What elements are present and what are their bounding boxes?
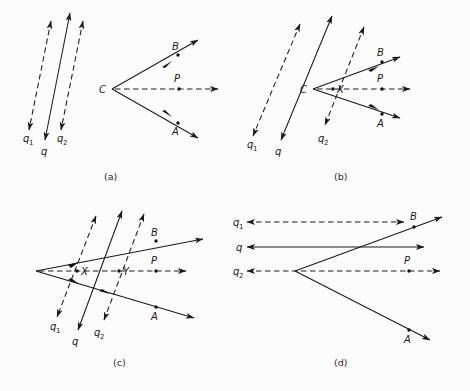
- panel-c-point-A: [154, 305, 157, 308]
- panel-d-label-A: A: [403, 334, 411, 345]
- panel-a-label-P: P: [174, 73, 181, 84]
- panel-c-label-q2-sub: 2: [100, 333, 104, 341]
- panel-c-point-Y: [117, 269, 120, 272]
- panel-a-caption: (a): [104, 171, 117, 182]
- panel-c-tick-B: [68, 262, 79, 268]
- panel-a-point-P: [177, 87, 180, 90]
- panel-b-label-A: A: [376, 118, 384, 129]
- panel-c-label-A: A: [150, 311, 158, 322]
- panel-b-label-B: B: [377, 47, 384, 58]
- panel-c-point-P: [154, 269, 157, 272]
- panel-b-point-X: [331, 87, 334, 90]
- panel-a-tick-B: [162, 61, 172, 68]
- panel-a: q 1 q q 2 C B A P (a): [23, 13, 218, 182]
- panel-c-label-B: B: [151, 227, 158, 238]
- panel-b-label-q1-sub: 1: [253, 145, 257, 153]
- panel-d-point-A: [407, 328, 410, 331]
- panel-a-label-C: C: [99, 84, 106, 95]
- panel-c-caption: (c): [113, 357, 126, 368]
- panel-a-tick-A: [162, 110, 172, 117]
- panel-a-label-q2-sub: 2: [63, 139, 67, 147]
- panel-d-caption: (d): [334, 357, 347, 368]
- panel-a-ray-CB: [112, 40, 198, 89]
- panel-b-label-q2-sub: 2: [324, 139, 328, 147]
- panel-c-label-q1-sub: 1: [56, 327, 60, 335]
- figure-canvas: q 1 q q 2 C B A P (a) q 1: [0, 0, 470, 391]
- panel-b-label-q: q: [275, 146, 281, 157]
- panel-b-point-A: [380, 112, 383, 115]
- panel-c-ray-B: [36, 239, 203, 271]
- panel-d-point-P: [407, 269, 410, 272]
- panel-b-point-P: [380, 87, 383, 90]
- panel-c-point-X: [75, 269, 78, 272]
- panel-b-label-C: C: [300, 84, 307, 95]
- panel-a-label-q: q: [41, 146, 47, 157]
- panel-b-line-q: [281, 16, 332, 140]
- panel-b-label-X: X: [336, 84, 345, 95]
- panel-d: q 1 q q 2 B A P (d): [233, 211, 442, 368]
- panel-d-label-q: q: [236, 242, 242, 253]
- panel-b-line-q1: [253, 24, 300, 136]
- panel-d-label-q2-sub: 2: [239, 272, 243, 280]
- panel-b-ray-CA: [313, 89, 400, 118]
- panel-d-ray-B: [295, 217, 442, 271]
- panel-c-label-X: X: [80, 266, 89, 277]
- panel-a-point-A: [176, 121, 179, 124]
- figure-vector-layer: q 1 q q 2 C B A P (a) q 1: [0, 0, 470, 391]
- panel-b-label-P: P: [377, 73, 384, 84]
- panel-c-point-B: [154, 239, 157, 242]
- panel-d-label-B: B: [410, 211, 417, 222]
- panel-b-line-q2: [325, 27, 364, 125]
- panel-b-caption: (b): [334, 171, 347, 182]
- panel-a-label-A: A: [171, 126, 179, 137]
- panel-a-ray-CA: [112, 89, 198, 138]
- panel-c: q 1 q q 2 X Y B A P (c): [36, 211, 203, 368]
- panel-d-label-q1-sub: 1: [239, 223, 243, 231]
- panel-a-line-q1: [29, 21, 51, 130]
- panel-c-label-Y: Y: [123, 266, 130, 277]
- panel-d-point-B: [412, 225, 415, 228]
- panel-a-label-q1-sub: 1: [29, 139, 33, 147]
- panel-b-ray-CB: [313, 57, 400, 89]
- panel-c-line-q1: [57, 216, 96, 317]
- panel-d-label-P: P: [404, 255, 411, 266]
- panel-c-label-q: q: [72, 336, 78, 347]
- panel-a-point-B: [176, 53, 179, 56]
- panel-a-label-B: B: [172, 41, 179, 52]
- panel-b-point-B: [380, 60, 383, 63]
- panel-c-label-P: P: [151, 255, 158, 266]
- panel-b: q 1 q q 2 C X B A P (b): [247, 16, 410, 182]
- panel-a-line-q2: [61, 21, 83, 130]
